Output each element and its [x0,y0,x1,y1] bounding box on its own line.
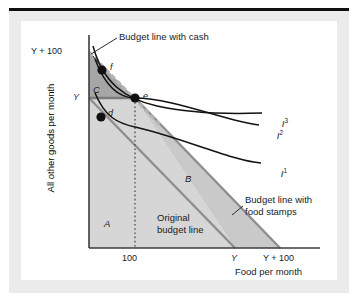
point-label-d: d [108,108,113,118]
annotation-original-budget-line-line1: Original [157,213,190,224]
x-tick-label-y: Y [231,253,237,263]
curve-label-i1: I1 [265,156,287,191]
annotation-original-budget-line-line2: budget line [157,225,203,236]
data-point-e[interactable] [130,93,139,102]
y-axis-title-wrap: All other goods per month [40,73,58,203]
figure-root: All other goods per month Y + 100 Y 100 … [0,0,356,305]
data-point-d[interactable] [96,112,105,121]
y-axis-title: All other goods per month [45,84,56,193]
region-label-a: A [104,219,110,230]
curve-label-i1-exponent: 1 [283,167,287,174]
y-tick-label-y-plus-100: Y + 100 [31,46,62,56]
plot-card: All other goods per month Y + 100 Y 100 … [21,21,337,280]
region-label-c: C [93,85,100,96]
x-axis-title: Food per month [235,267,302,278]
point-label-f: f [110,62,113,72]
point-label-e: e [143,91,148,101]
annotation-budget-line-food-stamps-line2: food stamps [245,207,297,218]
cash-label-leader-line [91,38,117,54]
chart-canvas [21,21,337,280]
curve-label-i3-exponent: 3 [284,117,288,124]
curve-label-i2-exponent: 2 [279,129,283,136]
x-tick-label-100: 100 [122,253,137,263]
y-tick-label-y: Y [73,92,79,102]
region-label-b: B [185,174,191,185]
data-point-f[interactable] [97,65,106,74]
annotation-budget-line-cash: Budget line with cash [119,32,209,43]
curve-label-i2: I2 [261,118,283,153]
annotation-budget-line-food-stamps-line1: Budget line with [245,195,312,206]
x-tick-label-y-plus-100: Y + 100 [263,253,294,263]
